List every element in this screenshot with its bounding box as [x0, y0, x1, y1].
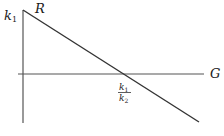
x-intercept-label: k1 k2: [118, 82, 131, 104]
svg-text:k1: k1: [119, 82, 128, 93]
r-line: [23, 10, 199, 122]
y-axis-label: k1: [4, 8, 17, 24]
line-label-r: R: [34, 1, 45, 16]
x-axis-label: G: [210, 66, 220, 81]
svg-text:k2: k2: [119, 93, 128, 104]
diagram-canvas: k1 R G k1 k2: [0, 0, 224, 136]
